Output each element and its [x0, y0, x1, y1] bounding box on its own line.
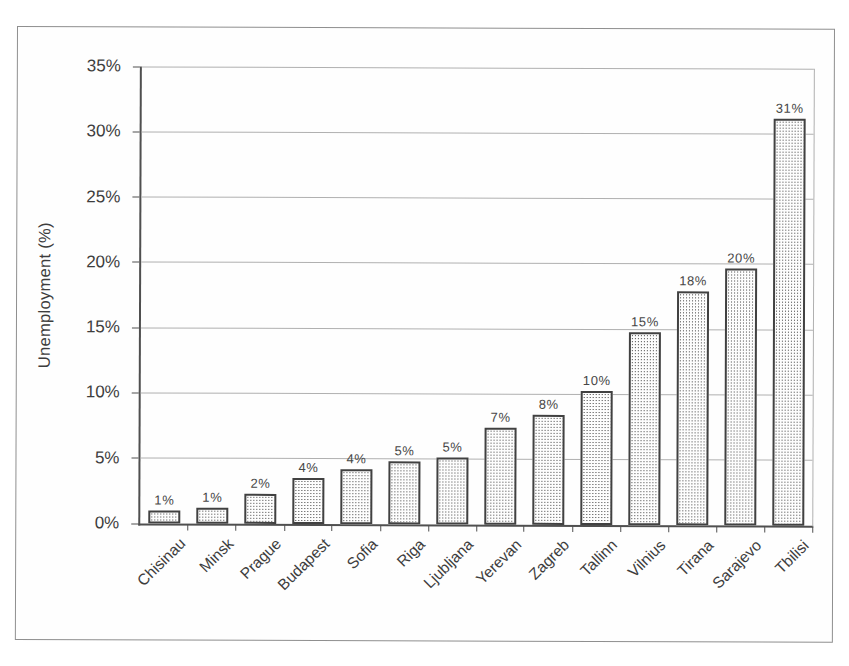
bar-sarajevo: 20% [724, 268, 757, 525]
y-tick-mark-30 [133, 131, 140, 132]
y-tick-label: 15% [86, 317, 120, 337]
x-label-riga: Riga [394, 535, 429, 570]
x-tick-mark [572, 526, 573, 532]
bar-ljubljana: 5% [436, 458, 468, 525]
x-label-zagreb: Zagreb [525, 536, 573, 583]
x-tick-mark [620, 526, 621, 532]
y-tick-mark-5 [131, 458, 138, 459]
y-tick-mark-15 [132, 327, 139, 328]
bar-slot-chisinau: 1% [140, 66, 190, 523]
y-tick-mark-0 [131, 523, 138, 524]
bar-slot-vilnius: 15% [620, 68, 670, 525]
bar-value-label: 8% [539, 397, 559, 412]
bar-value-label: 31% [776, 100, 804, 115]
bar-value-label: 1% [154, 492, 174, 507]
bar-value-label: 4% [298, 460, 318, 475]
bar-yerevan: 7% [484, 428, 516, 525]
bar-slot-tbilisi: 31% [764, 69, 814, 526]
bar-tallinn: 10% [580, 390, 612, 525]
y-tick-mark-35 [133, 66, 140, 67]
x-label-chisinau: Chisinau [134, 535, 189, 590]
bar-value-label: 2% [250, 476, 270, 491]
bar-vilnius: 15% [628, 332, 661, 525]
x-label-ljubljana: Ljubljana [420, 536, 477, 593]
y-tick-label: 5% [95, 448, 120, 468]
scanned-page: Unemployment (%) 35%30%25%20%15%10%5%0% … [0, 0, 849, 666]
bar-prague: 2% [244, 494, 276, 524]
y-tick-label: 35% [87, 56, 121, 76]
bar-slot-zagreb: 8% [524, 68, 574, 525]
x-label-vilnius: Vilnius [624, 536, 669, 581]
bar-value-label: 4% [346, 451, 366, 466]
bar-slot-tirana: 18% [668, 68, 718, 525]
x-tick-mark [380, 525, 381, 531]
bar-value-label: 1% [202, 490, 222, 505]
y-tick-mark-20 [132, 262, 139, 263]
plot-area: 1%1%2%4%4%5%5%7%8%10%15%18%20%31% Chisin… [138, 66, 815, 527]
bar-minsk: 1% [196, 508, 228, 524]
bar-value-label: 10% [583, 372, 611, 387]
x-tick-mark [524, 526, 525, 532]
y-tick-label: 20% [86, 252, 120, 272]
x-tick-mark [812, 527, 813, 533]
bar-value-label: 5% [443, 440, 463, 455]
y-tick-mark-10 [132, 392, 139, 393]
x-label-yerevan: Yerevan [472, 536, 525, 588]
x-tick-mark [764, 527, 765, 533]
x-tick-mark [668, 526, 669, 532]
bars-container: 1%1%2%4%4%5%5%7%8%10%15%18%20%31% [140, 66, 814, 525]
bar-riga: 5% [388, 462, 420, 525]
y-tick-mark-25 [132, 196, 139, 197]
bar-budapest: 4% [292, 478, 324, 524]
bar-slot-minsk: 1% [188, 67, 238, 524]
x-label-prague: Prague [237, 535, 285, 583]
x-label-tallinn: Tallinn [577, 536, 621, 580]
bar-chisinau: 1% [148, 510, 180, 523]
x-axis-area: ChisinauMinskPragueBudapestSofiaRigaLjub… [140, 523, 812, 645]
x-tick-mark [284, 525, 285, 531]
y-axis-tick-labels: 35%30%25%20%15%10%5%0% [16, 66, 130, 523]
bar-slot-tallinn: 10% [572, 68, 622, 525]
bar-value-label: 7% [491, 410, 511, 425]
x-tick-mark [236, 525, 237, 531]
x-label-budapest: Budapest [274, 535, 333, 594]
bar-value-label: 18% [679, 274, 707, 289]
x-tick-mark [332, 525, 333, 531]
x-tick-mark [476, 526, 477, 532]
x-label-sofia: Sofia [343, 535, 381, 573]
bar-slot-prague: 2% [236, 67, 286, 524]
y-tick-label: 25% [86, 187, 120, 207]
x-label-tirana: Tirana [674, 536, 717, 579]
figure-frame: Unemployment (%) 35%30%25%20%15%10%5%0% … [15, 26, 835, 643]
x-label-sarajevo: Sarajevo [709, 537, 765, 593]
bar-value-label: 5% [394, 444, 414, 459]
bar-slot-sarajevo: 20% [716, 68, 766, 525]
bar-value-label: 15% [631, 314, 659, 329]
bar-value-label: 20% [727, 250, 755, 265]
x-tick-mark [188, 525, 189, 531]
y-tick-label: 30% [87, 122, 121, 142]
x-tick-mark [716, 526, 717, 532]
x-label-tbilisi: Tbilisi [772, 537, 813, 578]
bar-slot-riga: 5% [380, 67, 430, 524]
x-label-minsk: Minsk [196, 535, 237, 576]
bar-slot-yerevan: 7% [476, 68, 526, 525]
bar-zagreb: 8% [532, 415, 564, 525]
bar-tbilisi: 31% [772, 118, 805, 525]
bar-slot-ljubljana: 5% [428, 67, 478, 524]
y-tick-label: 0% [95, 513, 120, 533]
bar-tirana: 18% [676, 292, 709, 526]
x-tick-mark [428, 525, 429, 531]
bar-sofia: 4% [340, 469, 372, 524]
bar-slot-sofia: 4% [332, 67, 382, 524]
bar-slot-budapest: 4% [284, 67, 334, 524]
y-tick-label: 10% [86, 383, 120, 403]
